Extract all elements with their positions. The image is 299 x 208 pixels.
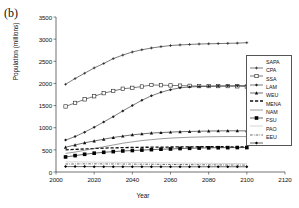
data-marker bbox=[64, 139, 67, 142]
legend-key-pao-icon bbox=[249, 125, 264, 133]
data-marker bbox=[197, 146, 201, 150]
data-marker bbox=[169, 88, 172, 91]
series-cpa bbox=[64, 83, 249, 108]
data-marker bbox=[121, 87, 124, 90]
y-axis-tick-label: 3500 bbox=[26, 14, 52, 21]
y-axis-tick-label: 3000 bbox=[26, 36, 52, 43]
data-marker bbox=[159, 84, 162, 87]
data-marker bbox=[112, 165, 115, 168]
data-marker bbox=[73, 101, 76, 104]
data-marker bbox=[64, 105, 67, 108]
data-marker bbox=[92, 95, 95, 98]
data-marker bbox=[207, 165, 210, 168]
data-marker bbox=[112, 89, 115, 92]
x-axis-tick-label: 2040 bbox=[117, 176, 147, 183]
x-axis-tick-label: 2120 bbox=[270, 176, 299, 183]
data-marker bbox=[112, 115, 115, 118]
legend-item-nam[interactable]: NAM bbox=[249, 108, 289, 116]
data-marker bbox=[83, 165, 86, 168]
y-axis-tick-label: 0 bbox=[26, 169, 52, 176]
y-axis-tick-label: 1000 bbox=[26, 124, 52, 131]
legend-key-sapa-icon bbox=[249, 58, 264, 66]
data-marker bbox=[159, 147, 163, 151]
data-marker bbox=[83, 152, 87, 156]
data-marker bbox=[159, 91, 162, 94]
data-marker bbox=[93, 126, 96, 129]
data-marker bbox=[64, 155, 68, 159]
data-marker bbox=[121, 149, 125, 153]
legend-item-fsu[interactable]: FSU bbox=[249, 116, 289, 124]
data-marker bbox=[102, 150, 106, 154]
x-axis-tick-label: 2080 bbox=[194, 176, 224, 183]
legend-key-ssa-icon bbox=[249, 75, 264, 83]
data-marker bbox=[150, 83, 153, 86]
series-eeu bbox=[64, 165, 248, 168]
legend-item-cpa[interactable]: CPA bbox=[249, 66, 289, 74]
data-marker bbox=[255, 141, 258, 144]
figure-panel-b: (b) Population (millions) Year 350030002… bbox=[0, 0, 299, 208]
data-marker bbox=[131, 86, 134, 89]
series-line-sapa bbox=[66, 43, 247, 85]
y-axis-tick-label: 2000 bbox=[26, 80, 52, 87]
legend-item-pao[interactable]: PAO bbox=[249, 124, 289, 132]
y-axis-tick-label: 2500 bbox=[26, 58, 52, 65]
data-marker bbox=[140, 85, 143, 88]
legend-key-weu-icon bbox=[249, 91, 264, 99]
x-axis-tick-label: 2020 bbox=[79, 176, 109, 183]
data-marker bbox=[226, 165, 229, 168]
series-sapa bbox=[64, 41, 248, 85]
chart-legend: SAPACPASSALAMWEUMENANAMFSUPAOEEU bbox=[246, 55, 292, 146]
data-marker bbox=[140, 148, 144, 152]
data-marker bbox=[150, 94, 153, 97]
data-marker bbox=[74, 165, 77, 168]
legend-label: SAPA bbox=[264, 58, 280, 66]
legend-item-weu[interactable]: WEU bbox=[249, 91, 289, 99]
legend-item-ssa[interactable]: SSA bbox=[249, 75, 289, 83]
legend-label: LAM bbox=[264, 83, 277, 91]
series-line-pao bbox=[66, 164, 247, 165]
legend-key-mena-icon bbox=[249, 100, 264, 108]
legend-label: PAO bbox=[264, 125, 277, 133]
series-line-mena bbox=[66, 137, 247, 154]
data-marker bbox=[140, 165, 143, 168]
legend-key-lam-icon bbox=[249, 83, 264, 91]
data-marker bbox=[140, 99, 143, 102]
x-axis-tick-label: 2100 bbox=[232, 176, 262, 183]
legend-key-cpa-icon bbox=[249, 66, 264, 74]
y-axis-tick-label: 500 bbox=[26, 147, 52, 154]
data-marker bbox=[178, 147, 182, 151]
legend-label: WEU bbox=[264, 91, 278, 99]
data-marker bbox=[102, 165, 105, 168]
series-line-fsu bbox=[66, 162, 247, 164]
data-marker bbox=[245, 165, 248, 168]
series-pao bbox=[66, 164, 247, 165]
legend-item-eeu[interactable]: EEU bbox=[249, 133, 289, 141]
legend-item-sapa[interactable]: SAPA bbox=[249, 58, 289, 66]
data-marker bbox=[198, 165, 201, 168]
data-marker bbox=[83, 131, 86, 134]
legend-label: EEU bbox=[264, 133, 277, 141]
x-axis-tick-label: 2000 bbox=[41, 176, 71, 183]
legend-label: CPA bbox=[264, 66, 276, 74]
data-marker bbox=[111, 150, 115, 154]
x-axis-title: Year bbox=[113, 192, 173, 199]
legend-label: FSU bbox=[264, 116, 276, 124]
data-marker bbox=[121, 165, 124, 168]
data-marker bbox=[83, 98, 86, 101]
data-marker bbox=[93, 165, 96, 168]
data-marker bbox=[102, 120, 105, 123]
data-marker bbox=[64, 165, 67, 168]
data-marker bbox=[169, 165, 172, 168]
data-marker bbox=[226, 146, 230, 150]
data-marker bbox=[121, 109, 124, 112]
legend-item-mena[interactable]: MENA bbox=[249, 99, 289, 107]
data-marker bbox=[102, 91, 105, 94]
data-marker bbox=[188, 147, 192, 151]
data-marker bbox=[236, 165, 239, 168]
data-marker bbox=[188, 165, 191, 168]
legend-item-lam[interactable]: LAM bbox=[249, 83, 289, 91]
legend-key-fsu-icon bbox=[249, 116, 264, 124]
data-marker bbox=[131, 104, 134, 107]
series-lam bbox=[64, 129, 249, 149]
series-group bbox=[64, 41, 249, 168]
